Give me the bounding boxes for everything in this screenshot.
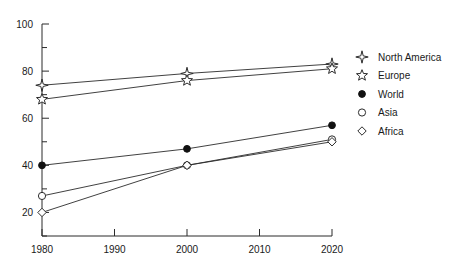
- data-point-marker: [38, 192, 45, 199]
- y-axis-tick-labels: 20406080100: [16, 19, 33, 218]
- data-point-marker: [38, 208, 46, 216]
- x-tick-label: 2020: [321, 244, 344, 255]
- x-tick-label: 1980: [31, 244, 54, 255]
- y-tick-label: 80: [22, 66, 34, 77]
- chart-series-group: [36, 58, 338, 217]
- filled-circle-icon: [359, 91, 366, 98]
- chart-axes: [42, 24, 332, 236]
- data-point-marker: [39, 162, 46, 169]
- open-diamond-icon: [358, 127, 366, 135]
- four-pointed-star-icon: [356, 51, 368, 63]
- data-point-marker: [181, 75, 192, 86]
- x-tick-label: 2000: [176, 244, 199, 255]
- y-tick-label: 60: [22, 113, 34, 124]
- chart-canvas: 20406080100 19801990200020102020 North A…: [0, 0, 459, 272]
- legend-item-asia[interactable]: Asia: [358, 107, 397, 118]
- legend-item-europe[interactable]: Europe: [356, 70, 410, 81]
- y-tick-label: 100: [16, 19, 33, 30]
- data-point-marker: [183, 161, 191, 169]
- legend-item-label: Asia: [378, 107, 398, 118]
- legend-item-north-america[interactable]: North America: [356, 51, 442, 63]
- legend-item-label: Europe: [378, 70, 411, 81]
- data-point-marker: [184, 145, 191, 152]
- legend-item-world[interactable]: World: [359, 89, 404, 100]
- x-axis-tick-labels: 19801990200020102020: [31, 244, 344, 255]
- five-pointed-star-icon: [356, 70, 367, 80]
- legend-item-label: World: [378, 89, 404, 100]
- open-circle-icon: [358, 109, 365, 116]
- data-point-marker: [329, 122, 336, 129]
- x-tick-label: 1990: [103, 244, 126, 255]
- x-tick-label: 2010: [248, 244, 271, 255]
- y-tick-label: 20: [22, 207, 34, 218]
- axis-frame: [42, 24, 332, 236]
- legend-item-africa[interactable]: Africa: [358, 126, 404, 137]
- line-chart: 20406080100 19801990200020102020 North A…: [0, 0, 459, 272]
- data-point-marker: [36, 79, 48, 91]
- y-tick-label: 40: [22, 160, 34, 171]
- legend-item-label: Africa: [378, 126, 404, 137]
- chart-legend: North AmericaEuropeWorldAsiaAfrica: [356, 51, 442, 137]
- legend-item-label: North America: [378, 52, 442, 63]
